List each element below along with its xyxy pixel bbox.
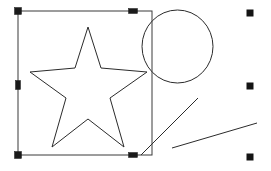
- handle-middle-left[interactable]: [16, 81, 21, 90]
- handle-top-middle[interactable]: [129, 9, 138, 14]
- vector-canvas-svg[interactable]: [0, 0, 271, 171]
- circle-shape[interactable]: [142, 10, 213, 83]
- handle-top-left[interactable]: [15, 8, 22, 15]
- handle-bottom-middle[interactable]: [129, 153, 138, 158]
- diagonal-line-steep[interactable]: [141, 98, 198, 155]
- anchor-marker-top-right[interactable]: [247, 10, 254, 17]
- anchor-marker-middle-right[interactable]: [247, 83, 254, 90]
- handle-bottom-left[interactable]: [15, 152, 22, 159]
- anchor-marker-bottom-right[interactable]: [247, 154, 254, 161]
- star-shape[interactable]: [30, 27, 147, 147]
- drawing-canvas[interactable]: [0, 0, 271, 171]
- diagonal-line-shallow[interactable]: [172, 123, 257, 148]
- selection-handle-group[interactable]: [15, 8, 138, 159]
- anchor-marker-group[interactable]: [247, 10, 254, 161]
